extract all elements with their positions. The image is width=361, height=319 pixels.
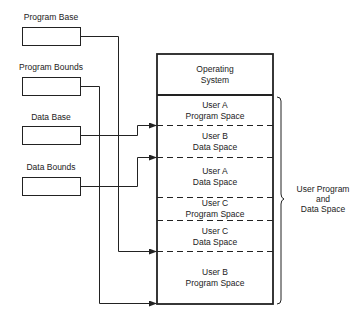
user-space-label: User Program and Data Space	[288, 184, 358, 214]
segment-user-c-program: User CProgram Space	[157, 198, 273, 219]
segment-user-b-data: User BData Space	[157, 131, 273, 152]
program-bounds-label: Program Bounds	[12, 62, 90, 72]
segment-user-b-program: User BProgram Space	[157, 267, 273, 288]
data-base-label: Data Base	[22, 112, 80, 122]
data-bounds-register	[23, 178, 81, 196]
brace	[277, 97, 284, 304]
segment-user-a-data: User AData Space	[157, 166, 273, 187]
data-bounds-label: Data Bounds	[18, 162, 84, 172]
segment-user-c-data: User CData Space	[157, 226, 273, 247]
program-base-register	[23, 28, 81, 46]
program-bounds-register	[23, 78, 81, 96]
segment-operating-system: OperatingSystem	[157, 64, 273, 85]
program-base-label: Program Base	[22, 12, 80, 22]
data-base-register	[23, 127, 81, 145]
segment-user-a-program: User AProgram Space	[157, 100, 273, 121]
